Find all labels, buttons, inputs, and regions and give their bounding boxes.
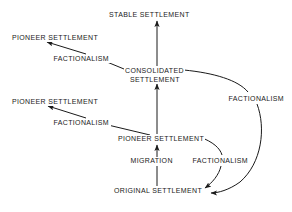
settlement-process-diagram: STABLE SETTLEMENT PIONEER SETTLEMENT CON… [0, 0, 292, 212]
edge-label-factionalism-lower-left: FACTIONALISM [52, 119, 111, 127]
edge-factionalism-upper-left-to-pioneer [47, 42, 86, 54]
edge-label-factionalism-right-lower: FACTIONALISM [191, 157, 250, 165]
node-pioneer-settlement-lower-left: PIONEER SETTLEMENT [11, 98, 99, 106]
node-pioneer-settlement-center: PIONEER SETTLEMENT [117, 135, 205, 143]
edge-label-migration: MIGRATION [129, 157, 174, 165]
edge-pioneer-center-to-factionalism-lower-left [108, 125, 150, 135]
edge-label-factionalism-upper-left: FACTIONALISM [52, 55, 111, 63]
node-original-settlement: ORIGINAL SETTLEMENT [113, 187, 203, 195]
node-pioneer-settlement-upper-left: PIONEER SETTLEMENT [11, 34, 99, 42]
edge-factionalism-lower-left-to-pioneer [48, 106, 86, 118]
node-consolidated-settlement-line1: CONSOLIDATED [124, 67, 185, 75]
node-stable-settlement: STABLE SETTLEMENT [108, 11, 191, 19]
edge-pioneer-center-to-original-curve-lower [205, 166, 221, 188]
edge-label-factionalism-right-upper: FACTIONALISM [227, 95, 286, 103]
diagram-edges-layer [0, 0, 292, 212]
node-consolidated-settlement-line2: SETTLEMENT [129, 76, 181, 84]
edge-consolidated-to-original-curve-upper [184, 70, 248, 92]
edge-consolidated-to-factionalism-upper-left [107, 62, 124, 69]
